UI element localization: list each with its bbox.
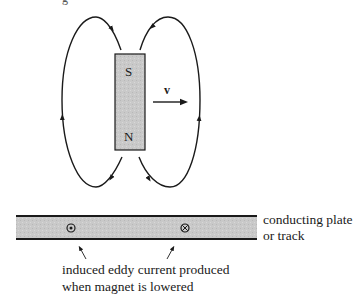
- cropped-text-fragment: g: [62, 0, 68, 6]
- velocity-label: v: [164, 83, 170, 98]
- diagram-graphics: [0, 0, 355, 299]
- pointer-arrow-right-icon: [167, 248, 173, 259]
- plate-label-line1: conducting plate: [263, 212, 353, 228]
- south-pole-label: S: [125, 64, 132, 80]
- north-pole-label: N: [124, 129, 133, 145]
- pointer-arrow-left-icon: [80, 248, 86, 259]
- field-loop-left: [62, 17, 122, 187]
- caption-line2: when magnet is lowered: [62, 279, 194, 295]
- plate-label-line2: or track: [263, 228, 305, 244]
- conducting-plate: [16, 216, 257, 239]
- eddy-current-diagram: g S N v conducting plate or track induce…: [0, 0, 355, 299]
- caption-line1: induced eddy current produced: [62, 262, 230, 278]
